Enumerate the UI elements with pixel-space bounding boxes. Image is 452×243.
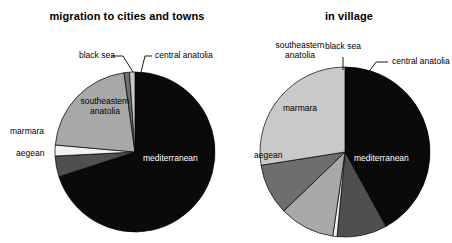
label-central-anatolia-left: central anatolia: [155, 50, 213, 60]
label-southeastern-anatolia-left-line2: anatolia: [68, 106, 142, 116]
label-southeastern-anatolia-right-line2: anatolia: [262, 50, 338, 60]
pie-chart-figure: migration to cities and towns black sea …: [0, 0, 452, 243]
chart-panel-migration-to-cities-and-towns: migration to cities and towns black sea …: [0, 0, 226, 243]
label-marmara-right: marmara: [283, 103, 317, 113]
leader-black-sea-left: [112, 56, 133, 72]
label-southeastern-anatolia-left: southeastern anatolia: [68, 96, 142, 116]
label-mediterranean-right: mediterranean: [354, 153, 409, 163]
label-black-sea-left: black sea: [79, 50, 115, 60]
leader-central-anatolia-left: [141, 56, 152, 72]
label-mediterranean-left: mediterranean: [143, 153, 198, 163]
label-marmara-left: marmara: [10, 126, 44, 136]
pie-left-leaders: [112, 56, 152, 72]
pie-right-slices: [260, 67, 430, 237]
pie-right: [226, 0, 452, 243]
label-southeastern-anatolia-left-line1: southeastern: [68, 96, 142, 106]
label-central-anatolia-right: central anatolia: [392, 56, 450, 66]
label-black-sea-right: black sea: [325, 41, 361, 51]
pie-left: [0, 0, 226, 243]
label-aegean-left: aegean: [16, 148, 44, 158]
chart-panel-in-village: in village southeastern anatolia black s…: [226, 0, 452, 243]
label-aegean-right: aegean: [254, 150, 282, 160]
